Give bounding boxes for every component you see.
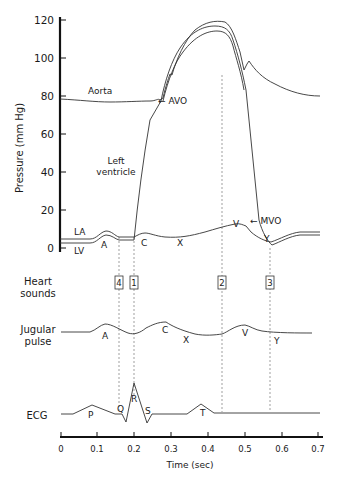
svg-text:1: 1	[131, 278, 136, 288]
svg-text:0.7: 0.7	[311, 444, 325, 454]
x-tick-labels: 0 0.1 0.2 0.3 0.4 0.5 0.6 0.7	[58, 444, 324, 454]
y-tick-20: 20	[41, 204, 54, 216]
y-axis-label: Pressure (mm Hg)	[14, 103, 25, 193]
left-ventricle-label-1: Left	[108, 156, 125, 166]
jp-y-label: Y	[273, 336, 280, 346]
la-label: LA	[74, 227, 86, 237]
jp-c-label: C	[162, 325, 168, 335]
jugular-label-1: Jugular	[20, 324, 57, 335]
y-tick-60: 60	[41, 128, 54, 140]
heart-sounds-label-1: Heart	[24, 276, 52, 287]
aorta-label: Aorta	[88, 86, 112, 96]
heart-sound-1: 1	[130, 276, 138, 289]
svg-text:3: 3	[267, 278, 272, 288]
svg-text:0.2: 0.2	[127, 444, 141, 454]
jp-v-label: V	[242, 328, 249, 338]
jugular-label-2: pulse	[25, 336, 52, 347]
svg-text:2: 2	[219, 278, 224, 288]
svg-text:0.5: 0.5	[238, 444, 252, 454]
ecg-p-label: P	[88, 410, 94, 420]
left-ventricle-label-2: ventricle	[96, 167, 136, 177]
svg-text:0.3: 0.3	[164, 444, 178, 454]
ecg-label: ECG	[26, 410, 47, 421]
jp-x-label: X	[183, 335, 189, 345]
y-tick-80: 80	[41, 90, 54, 102]
svg-text:0.6: 0.6	[275, 444, 289, 454]
mvo-label: ← MVO	[250, 216, 281, 226]
jp-a-label: A	[102, 331, 109, 341]
heart-sound-4: 4	[115, 276, 123, 289]
svg-text:4: 4	[116, 278, 121, 288]
svg-text:0.4: 0.4	[201, 444, 215, 454]
heart-sound-2: 2	[218, 276, 226, 289]
ecg-t-label: T	[199, 408, 206, 418]
y-tick-40: 40	[41, 166, 54, 178]
ecg-q-label: Q	[117, 404, 124, 414]
y-tick-0: 0	[47, 242, 54, 254]
lv-label: LV	[74, 246, 85, 256]
cardiac-cycle-diagram: 120 100 80 60 40 20 0 Pressure (mm Hg) A…	[0, 0, 337, 483]
heart-sounds-label-2: sounds	[20, 288, 56, 299]
v-wave-label: V	[233, 219, 240, 229]
heart-sound-3: 3	[266, 276, 274, 289]
y-tick-labels: 120 100 80 60 40 20 0	[34, 14, 54, 254]
ecg-s-label: S	[145, 406, 151, 416]
svg-text:0.1: 0.1	[90, 444, 104, 454]
avo-label: ← AVO	[158, 96, 187, 106]
y-tick-120: 120	[34, 14, 54, 26]
svg-text:0: 0	[58, 444, 63, 454]
left-ventricle-trace	[60, 26, 320, 245]
y-descent-label: Y	[263, 234, 270, 244]
ecg-r-label: R	[131, 394, 137, 404]
x-descent-label: X	[177, 238, 183, 248]
a-wave-label: A	[101, 240, 108, 250]
ecg-trace	[61, 383, 320, 423]
jugular-pulse-trace	[61, 322, 312, 335]
y-tick-100: 100	[34, 52, 54, 64]
c-wave-label: C	[141, 238, 147, 248]
x-axis-label: Time (sec)	[165, 460, 213, 470]
